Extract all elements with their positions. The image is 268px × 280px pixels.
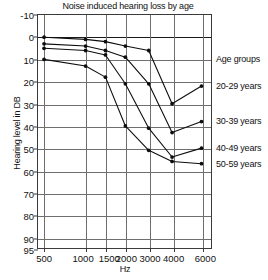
y-tick-label: 70 bbox=[23, 190, 34, 199]
y-tick-label: 60 bbox=[23, 167, 34, 176]
data-point bbox=[84, 44, 88, 48]
legend-entry-30-39-years: 30-39 years bbox=[216, 116, 261, 126]
x-tick-label: 3000 bbox=[139, 254, 160, 264]
y-tick-label: 0 bbox=[29, 33, 34, 42]
data-point bbox=[170, 102, 174, 106]
x-tick-label: 500 bbox=[36, 254, 52, 264]
data-point bbox=[147, 148, 151, 152]
y-tick-label: -10 bbox=[20, 11, 34, 20]
x-tick-mark bbox=[203, 248, 204, 252]
x-tick-label: 6000 bbox=[195, 254, 216, 264]
y-tick-label: 30 bbox=[23, 100, 34, 109]
y-tick-label: 40 bbox=[23, 122, 34, 131]
data-point bbox=[200, 120, 204, 124]
data-point bbox=[170, 160, 174, 164]
x-tick-mark bbox=[106, 248, 107, 252]
x-tick-mark bbox=[150, 248, 151, 252]
series-line bbox=[44, 37, 201, 104]
hearing-loss-chart: Noise induced hearing loss by age Hearin… bbox=[0, 0, 268, 280]
x-tick-mark bbox=[44, 248, 45, 252]
y-axis-label: Hearing level in DB bbox=[12, 58, 22, 208]
data-point bbox=[147, 126, 151, 130]
data-point bbox=[147, 82, 151, 86]
series-50-59-years bbox=[42, 57, 203, 165]
data-point bbox=[42, 35, 46, 39]
legend-entry-50-59-years: 50-59 years bbox=[216, 159, 261, 169]
legend-entry-20-29-years: 20-29 years bbox=[216, 81, 261, 91]
chart-title: Noise induced hearing loss by age bbox=[44, 0, 212, 12]
x-tick-mark bbox=[86, 248, 87, 252]
x-tick-label: 2000 bbox=[116, 254, 137, 264]
series-line bbox=[44, 48, 201, 157]
y-tick-label: 95 bbox=[23, 246, 34, 255]
x-axis-label: Hz bbox=[40, 264, 210, 274]
x-tick-mark bbox=[174, 248, 175, 252]
data-point bbox=[84, 64, 88, 68]
data-point bbox=[42, 46, 46, 50]
data-point bbox=[104, 40, 108, 44]
y-tick-label: 50 bbox=[23, 145, 34, 154]
y-tick-label: 10 bbox=[23, 55, 34, 64]
legend-title: Age groups bbox=[216, 54, 260, 64]
data-point bbox=[42, 42, 46, 46]
series-line bbox=[44, 59, 201, 163]
data-point bbox=[42, 57, 46, 61]
x-tick-label: 1000 bbox=[73, 254, 94, 264]
data-point bbox=[170, 131, 174, 135]
data-point bbox=[84, 38, 88, 42]
data-point bbox=[104, 49, 108, 53]
data-point bbox=[147, 49, 151, 53]
data-point bbox=[104, 53, 108, 57]
y-tick-mark bbox=[34, 250, 38, 251]
data-point bbox=[200, 162, 204, 166]
series-lines bbox=[38, 15, 211, 248]
y-tick-label: 90 bbox=[23, 234, 34, 243]
data-point bbox=[170, 155, 174, 159]
data-point bbox=[123, 82, 127, 86]
data-point bbox=[84, 49, 88, 53]
y-tick-label: 80 bbox=[23, 212, 34, 221]
x-tick-label: 4000 bbox=[163, 254, 184, 264]
y-tick-label: 20 bbox=[23, 78, 34, 87]
series-20-29-years bbox=[42, 35, 203, 105]
data-point bbox=[200, 146, 204, 150]
x-tick-mark bbox=[126, 248, 127, 252]
data-point bbox=[123, 55, 127, 59]
plot-area: -10010203040506070809095 500100015002000… bbox=[37, 14, 212, 249]
data-point bbox=[104, 75, 108, 79]
data-point bbox=[123, 44, 127, 48]
legend-entry-40-49-years: 40-49 years bbox=[216, 143, 261, 153]
data-point bbox=[123, 124, 127, 128]
data-point bbox=[200, 84, 204, 88]
